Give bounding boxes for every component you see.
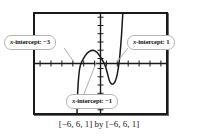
callout-x-intercept-neg3: x-intercept: −3: [4, 35, 56, 50]
intercepts-figure: x-intercept: −3 x-intercept: 1 x-interce…: [0, 0, 198, 139]
callout-right-text: -intercept: 1: [136, 38, 169, 45]
callout-x-intercept-neg1: x-intercept: −1: [66, 94, 118, 109]
callout-bottom-text: -intercept: −1: [75, 97, 112, 104]
viewing-window-caption: [−6, 6, 1] by [−6, 6, 1]: [0, 119, 198, 129]
callout-left-text: -intercept: −3: [13, 38, 50, 45]
callout-x-intercept-1: x-intercept: 1: [127, 35, 175, 50]
